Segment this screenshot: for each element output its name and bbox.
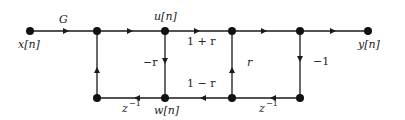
label-gain-r: r xyxy=(247,56,253,69)
arrow-right-icon xyxy=(63,28,69,34)
label-output: y[n] xyxy=(357,38,381,51)
arrow-down-icon xyxy=(162,58,168,64)
node-a xyxy=(93,27,101,35)
label-delay-right: z −1 xyxy=(258,99,278,115)
node-c xyxy=(296,27,304,35)
arrow-right-icon xyxy=(261,28,267,34)
label-gain-1-plus-r: 1 + r xyxy=(187,35,216,48)
node-u xyxy=(161,27,169,35)
arrow-right-icon xyxy=(330,28,336,34)
label-gain-G: G xyxy=(59,13,68,26)
signal-flow-graph: x[n] G u[n] 1 + r −r r −1 1 − r y[n] w[n… xyxy=(0,0,405,120)
node-c2 xyxy=(296,94,304,102)
svg-text:z: z xyxy=(121,102,128,115)
node-w xyxy=(161,94,169,102)
arrow-right-icon xyxy=(194,28,200,34)
label-gain-1-minus-r: 1 − r xyxy=(187,77,216,90)
node-a2 xyxy=(93,94,101,102)
arrow-up-icon xyxy=(229,67,235,73)
label-input: x[n] xyxy=(18,38,41,51)
node-b xyxy=(228,27,236,35)
svg-text:−1: −1 xyxy=(266,99,278,108)
label-w: w[n] xyxy=(154,104,180,117)
node-x xyxy=(26,27,34,35)
label-delay-left: z −1 xyxy=(121,99,141,115)
node-b2 xyxy=(228,94,236,102)
arrow-up-icon xyxy=(94,67,100,73)
label-gain-minus-r: −r xyxy=(143,56,158,69)
label-gain-minus-1: −1 xyxy=(313,55,329,68)
arrow-right-icon xyxy=(127,28,133,34)
svg-text:−1: −1 xyxy=(129,99,141,108)
svg-text:z: z xyxy=(258,102,265,115)
node-y xyxy=(364,27,372,35)
arrow-down-icon xyxy=(297,56,303,62)
arrow-left-icon xyxy=(200,95,206,101)
label-u: u[n] xyxy=(154,10,177,23)
